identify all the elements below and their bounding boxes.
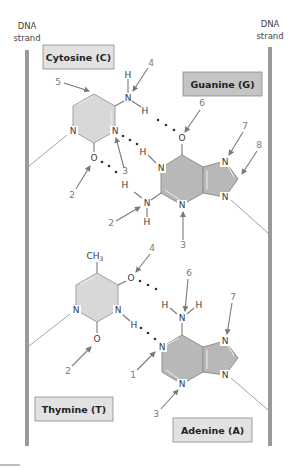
cytosine-n3: N	[112, 126, 119, 136]
guanine-n9: N	[222, 192, 229, 202]
thymine-n3: N	[115, 305, 122, 315]
cytosine-arrow-4	[133, 68, 148, 91]
guanine-h2b: H	[144, 217, 151, 227]
hbond-dot	[147, 284, 150, 287]
adenine-arrow-7	[227, 303, 232, 334]
adenine-label-3: 3	[153, 409, 159, 419]
guanine-h2a: H	[122, 180, 129, 190]
thymine-c4-o-bond	[118, 281, 126, 285]
adenine-arrow-1	[137, 352, 155, 370]
adenine-n1: N	[159, 342, 166, 352]
right-strand-bar	[268, 47, 272, 446]
thymine-ring	[76, 273, 118, 322]
thymine-h3: H	[131, 320, 138, 330]
cytosine-ring	[73, 94, 115, 143]
cytosine-arrow-3	[116, 138, 124, 168]
thymine-arrow-4	[136, 254, 150, 272]
right-strand-label-line1: DNA	[261, 19, 280, 29]
adenine-arrow-6	[185, 279, 188, 311]
hbond-dot	[157, 119, 160, 122]
adenine-label-1: 1	[130, 370, 136, 380]
right-strand-label-line2: strand	[256, 31, 283, 41]
hbond-dot	[136, 143, 139, 146]
hbond-dot	[165, 124, 168, 127]
adenine-n7: N	[222, 336, 229, 346]
cytosine-o2: O	[90, 153, 97, 163]
cytosine-n-h-bond	[132, 101, 141, 107]
guanine-label: Guanine (G)	[191, 79, 255, 90]
ta-hydrogen-bonds	[139, 280, 158, 341]
thymine-ch3: CH3	[87, 251, 104, 262]
thymine-molecule: Thymine (T) CH3 O N H N O 4 2	[35, 243, 155, 421]
page-edge-mark	[0, 464, 20, 466]
adenine-strand-link	[231, 378, 268, 410]
left-strand-label-line1: DNA	[18, 21, 37, 31]
adenine-label: Adenine (A)	[181, 425, 244, 436]
left-dna-strand: DNA strand	[13, 21, 40, 446]
hbond-dot	[173, 129, 176, 132]
cytosine-h4b: H	[142, 106, 149, 116]
cytosine-molecule: Cytosine (C) N N O N H H 5 4 3 2	[43, 45, 154, 200]
guanine-arrow-2	[116, 207, 140, 221]
guanine-label-6: 6	[199, 98, 205, 108]
cytosine-label: Cytosine (C)	[46, 52, 111, 63]
thymine-strand-link	[29, 314, 70, 346]
guanine-label-8: 8	[256, 140, 262, 150]
hbond-dot	[115, 171, 118, 174]
guanine-n2: N	[144, 198, 151, 208]
cytosine-n1: N	[70, 126, 77, 136]
hbond-dot	[155, 288, 158, 291]
adenine-five-ring	[203, 341, 238, 375]
thymine-label-4: 4	[149, 243, 155, 253]
adenine-n9: N	[222, 370, 229, 380]
hbond-dot	[129, 139, 132, 142]
hbond-dot	[154, 338, 157, 341]
guanine-n2-h-bond	[134, 192, 142, 198]
guanine-arrow-8	[242, 151, 257, 174]
guanine-strand-link	[231, 200, 268, 233]
guanine-n3: N	[179, 200, 186, 210]
guanine-n1: N	[158, 163, 165, 173]
guanine-n1-h-bond	[148, 155, 156, 163]
thymine-ch3-text: CH	[87, 251, 100, 261]
adenine-h6a: H	[162, 300, 169, 310]
adenine-h6b: H	[196, 300, 203, 310]
cytosine-arrow-2	[76, 166, 90, 189]
thymine-n3-h-bond	[122, 314, 130, 321]
base-pairing-diagram: DNA strand DNA strand Cytosine (C) N N O…	[0, 0, 298, 468]
thymine-arrow-2	[72, 347, 91, 366]
cytosine-label-2: 2	[69, 190, 75, 200]
thymine-ch3-subscript: 3	[100, 255, 104, 262]
adenine-n6: N	[179, 313, 186, 323]
guanine-six-ring	[161, 155, 203, 205]
cytosine-n4: N	[125, 93, 132, 103]
hbond-dot	[139, 280, 142, 283]
cytosine-label-3: 3	[122, 166, 128, 176]
adenine-label-6: 6	[186, 268, 192, 278]
hbond-dot	[140, 327, 143, 330]
guanine-arrow-7	[229, 132, 243, 155]
guanine-n7: N	[222, 157, 229, 167]
guanine-c2-n-bond	[151, 193, 161, 200]
adenine-arrow-3	[161, 390, 178, 409]
thymine-o4: O	[127, 273, 134, 283]
adenine-n6-h-bond	[170, 308, 177, 314]
adenine-n3: N	[179, 379, 186, 389]
hbond-dot	[122, 135, 125, 138]
left-strand-label-line2: strand	[13, 33, 40, 43]
adenine-n6-h-bond	[187, 308, 194, 314]
hbond-dot	[108, 165, 111, 168]
guanine-arrow-6	[185, 110, 200, 132]
cytosine-c4-n-bond	[115, 101, 124, 106]
cytosine-strand-link	[29, 135, 67, 166]
guanine-h1: H	[140, 147, 147, 157]
cytosine-label-4: 4	[148, 58, 154, 68]
guanine-label-2: 2	[108, 218, 114, 228]
hbond-dot	[101, 161, 104, 164]
left-strand-bar	[25, 50, 29, 446]
thymine-label-2: 2	[65, 366, 71, 376]
adenine-label-7: 7	[230, 292, 236, 302]
cytosine-arrow-5	[64, 83, 89, 91]
adenine-molecule: Adenine (A) N H H N N N N 6 7 1 3	[130, 268, 252, 442]
guanine-label-3: 3	[180, 240, 186, 250]
